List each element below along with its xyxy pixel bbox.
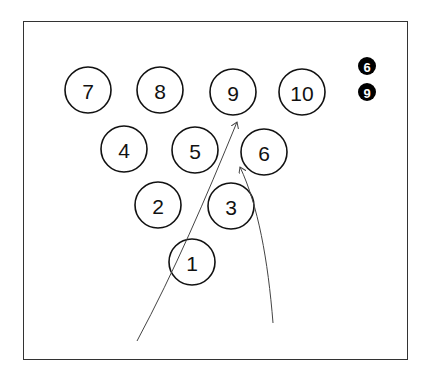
pin-label: 5 — [189, 140, 201, 163]
pin-label: 4 — [118, 139, 130, 162]
pin-label: 9 — [227, 82, 239, 105]
pin-3: 3 — [208, 183, 254, 229]
pin-label: 6 — [258, 142, 270, 165]
badge-label: 9 — [363, 86, 370, 101]
badge-6: 6 — [358, 57, 376, 75]
pins-layer: 78910456231 — [65, 67, 325, 285]
pin-1: 1 — [169, 239, 215, 285]
pin-label: 2 — [152, 195, 164, 218]
pin-10: 10 — [279, 69, 325, 115]
pin-label: 1 — [186, 252, 198, 275]
pin-label: 7 — [82, 80, 94, 103]
pin-6: 6 — [241, 129, 287, 175]
pin-2: 2 — [135, 182, 181, 228]
badge-9: 9 — [358, 83, 376, 101]
pin-4: 4 — [101, 126, 147, 172]
pin-8: 8 — [137, 67, 183, 113]
pin-label: 10 — [290, 82, 313, 105]
pin-label: 8 — [154, 80, 166, 103]
pin-5: 5 — [172, 127, 218, 173]
badge-label: 6 — [363, 60, 370, 75]
bowling-pin-diagram: 78910456231 69 — [0, 0, 432, 378]
pin-9: 9 — [210, 69, 256, 115]
pin-label: 3 — [225, 196, 237, 219]
legend-badges: 69 — [358, 57, 376, 101]
pin-7: 7 — [65, 67, 111, 113]
